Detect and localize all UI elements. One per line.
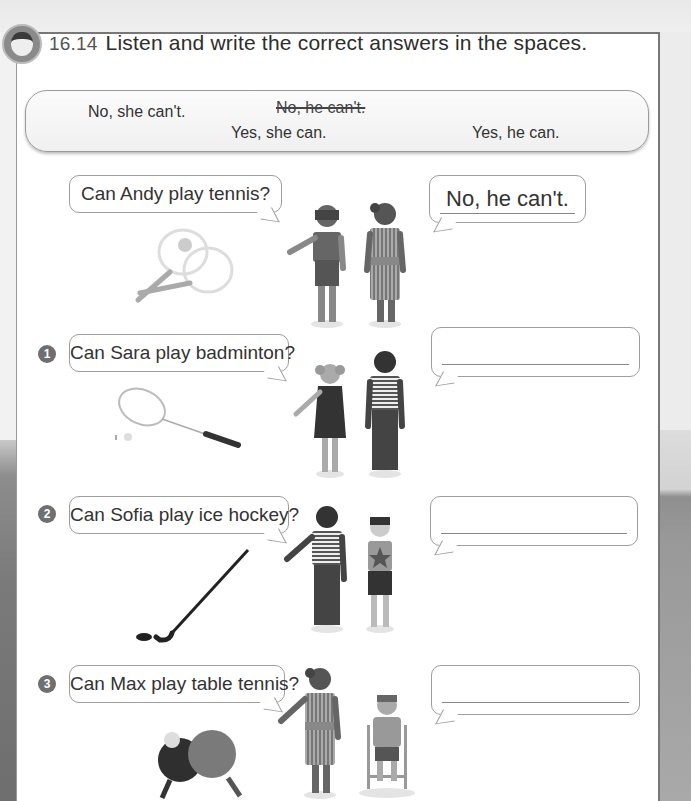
word-bank-option-used: No, he can't. xyxy=(276,99,365,117)
table-tennis-paddles-icon xyxy=(150,730,260,801)
question-number-2: 2 xyxy=(38,505,56,523)
answer-input-1[interactable] xyxy=(431,327,640,377)
question-bubble-3: Can Max play table tennis? xyxy=(69,665,285,703)
question-text: Can Sara play badminton? xyxy=(70,342,288,364)
question-text: Can Sofia play ice hockey? xyxy=(70,504,288,526)
word-bank-option: No, she can't. xyxy=(88,103,185,121)
question-bubble-example: Can Andy play tennis? xyxy=(69,175,282,213)
question-text: Can Max play table tennis? xyxy=(70,673,284,695)
hockey-stick-icon xyxy=(130,545,260,645)
question-text: Can Andy play tennis? xyxy=(70,183,281,205)
answer-input-2[interactable] xyxy=(430,496,638,546)
exercise-instruction: Listen and write the correct answers in … xyxy=(106,31,588,54)
answer-line xyxy=(442,702,629,703)
answer-input-3[interactable] xyxy=(431,665,640,715)
question-number-1: 1 xyxy=(38,345,56,363)
answer-line xyxy=(440,213,575,214)
answer-line xyxy=(442,364,629,365)
exercise-title: 16.14Listen and write the correct answer… xyxy=(49,31,587,55)
word-bank: No, she can't. No, he can't. Yes, she ca… xyxy=(25,90,649,152)
word-bank-option: Yes, he can. xyxy=(472,124,559,142)
question-bubble-2: Can Sofia play ice hockey? xyxy=(69,496,289,534)
answer-text-example: No, he can't. xyxy=(430,186,585,212)
background-left-photo xyxy=(0,440,16,801)
children-figures-2 xyxy=(275,505,415,635)
badminton-racket-icon xyxy=(110,385,245,450)
question-bubble-1: Can Sara play badminton? xyxy=(69,334,289,372)
tennis-rackets-icon xyxy=(130,225,240,310)
background-top xyxy=(0,0,691,32)
word-bank-option: Yes, she can. xyxy=(231,124,326,142)
answer-line xyxy=(441,533,627,534)
answer-bubble-example: No, he can't. xyxy=(429,175,586,223)
background-right-photo xyxy=(660,430,691,801)
children-figures-1 xyxy=(290,350,420,480)
question-number-3: 3 xyxy=(38,675,56,693)
exercise-number: 16.14 xyxy=(49,33,98,54)
children-figures-example xyxy=(285,200,415,330)
listening-child-headphones-icon xyxy=(2,24,42,64)
background-right-upper xyxy=(660,32,691,432)
children-figures-3 xyxy=(275,665,425,801)
